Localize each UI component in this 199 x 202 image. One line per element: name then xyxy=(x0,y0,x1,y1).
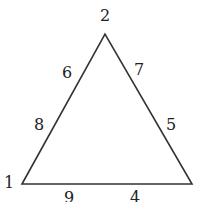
left-edge-label-upper: 6 xyxy=(62,65,72,81)
right-edge-label-upper: 7 xyxy=(134,62,144,78)
bottom-edge-label-left: 9 xyxy=(64,190,74,202)
right-edge-label-lower: 5 xyxy=(166,117,176,133)
triangle-shape xyxy=(0,0,199,202)
triangle-diagram: 2 1 6 8 7 5 9 4 xyxy=(0,0,199,202)
vertex-label-top: 2 xyxy=(100,8,110,24)
bottom-edge-label-right: 4 xyxy=(130,190,140,202)
vertex-label-bottom-left: 1 xyxy=(4,175,14,191)
left-edge-label-lower: 8 xyxy=(34,117,44,133)
